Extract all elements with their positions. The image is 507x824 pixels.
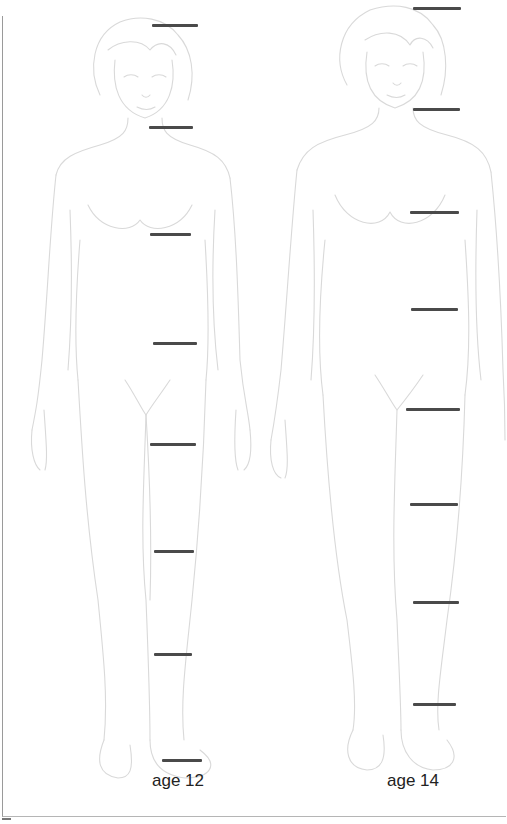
label-age-14: age 14: [353, 771, 473, 791]
body-outline-age-14: [255, 0, 507, 790]
corner-mark: [2, 818, 11, 820]
measurement-marker: [162, 759, 202, 762]
label-age-12: age 12: [118, 771, 238, 791]
measurement-marker: [413, 601, 459, 604]
measurement-marker: [154, 550, 194, 553]
figure-age-14: [255, 0, 507, 790]
measurement-marker: [411, 308, 458, 311]
measurement-marker: [410, 211, 459, 214]
measurement-marker: [153, 342, 197, 345]
measurement-marker: [413, 7, 461, 10]
measurement-marker: [413, 703, 456, 706]
body-outline-age-12: [0, 0, 260, 790]
measurement-marker: [154, 653, 192, 656]
measurement-marker: [152, 24, 198, 27]
figure-age-12: [0, 0, 260, 790]
measurement-marker: [413, 108, 460, 111]
measurement-marker: [149, 126, 193, 129]
measurement-marker: [406, 408, 460, 411]
measurement-marker: [150, 443, 196, 446]
measurement-marker: [410, 503, 458, 506]
measurement-marker: [150, 233, 191, 236]
